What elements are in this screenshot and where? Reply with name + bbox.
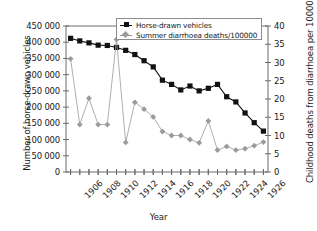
data-point-marker <box>132 99 138 105</box>
data-point-marker <box>261 129 266 134</box>
legend-item-horse-drawn-vehicles: Horse-drawn vehicles <box>120 20 258 30</box>
data-point-marker <box>242 146 248 152</box>
data-point-marker <box>178 133 184 139</box>
legend-label-summer-diarrhoea-deaths: Summer diarrhoea deaths/100000 <box>136 31 257 40</box>
series-horse-drawn-vehicles <box>68 36 266 134</box>
y-tick-label-left: 350 000 <box>8 53 60 63</box>
data-point-marker <box>197 88 202 93</box>
data-point-marker <box>141 58 146 63</box>
data-point-marker <box>215 147 221 153</box>
data-point-marker <box>132 52 137 57</box>
data-point-marker <box>96 43 101 48</box>
data-point-marker <box>77 38 82 43</box>
y-tick-label-right: 10 <box>274 131 298 141</box>
data-point-marker <box>123 140 129 146</box>
series-summer-diarrhoea-deaths <box>68 37 267 153</box>
data-point-marker <box>261 139 267 145</box>
series-line <box>71 40 264 151</box>
y-tick-label-right: 5 <box>274 149 298 159</box>
y-tick-label-right: 40 <box>274 21 298 31</box>
data-point-marker <box>86 40 91 45</box>
data-point-marker <box>233 147 239 153</box>
legend-label-horse-drawn-vehicles: Horse-drawn vehicles <box>136 21 212 30</box>
data-point-marker <box>187 83 192 88</box>
y-tick-label-left: 0 <box>8 167 60 177</box>
y-tick-label-left: 200 000 <box>8 102 60 112</box>
y-tick-label-left: 300 000 <box>8 70 60 80</box>
data-point-marker <box>233 99 238 104</box>
data-point-marker <box>206 86 211 91</box>
data-point-marker <box>68 36 73 41</box>
legend-item-summer-diarrhoea-deaths: Summer diarrhoea deaths/100000 <box>120 30 258 40</box>
y-tick-label-left: 450 000 <box>8 21 60 31</box>
data-point-marker <box>252 120 257 125</box>
data-point-marker <box>160 78 165 83</box>
data-point-marker <box>224 94 229 99</box>
legend-marker-diamond-icon <box>120 31 132 40</box>
data-point-marker <box>169 133 175 139</box>
data-point-marker <box>95 122 101 128</box>
y-tick-label-left: 250 000 <box>8 86 60 96</box>
legend-marker-square-icon <box>120 21 132 30</box>
data-point-marker <box>123 48 128 53</box>
data-point-marker <box>86 95 92 101</box>
y-tick-label-left: 100 000 <box>8 135 60 145</box>
data-point-marker <box>151 64 156 69</box>
data-point-marker <box>178 87 183 92</box>
data-point-marker <box>104 122 110 128</box>
chart-figure: Number of horse-drawn vehicles Childhood… <box>0 0 317 231</box>
data-point-marker <box>160 129 166 135</box>
y-tick-label-left: 150 000 <box>8 118 60 128</box>
data-point-marker <box>105 43 110 48</box>
data-point-marker <box>68 56 74 62</box>
y-tick-label-right: 20 <box>274 94 298 104</box>
data-point-marker <box>77 122 83 128</box>
y-tick-label-right: 25 <box>274 76 298 86</box>
y-tick-label-right: 30 <box>274 58 298 68</box>
data-point-marker <box>187 137 193 143</box>
y-tick-label-right: 35 <box>274 39 298 49</box>
y-tick-label-left: 50 000 <box>8 151 60 161</box>
y-tick-label-left: 400 000 <box>8 37 60 47</box>
y-tick-label-right: 0 <box>274 167 298 177</box>
data-point-marker <box>215 82 220 87</box>
chart-legend: Horse-drawn vehicles Summer diarrhoea de… <box>116 18 262 40</box>
data-point-marker <box>224 144 230 150</box>
data-point-marker <box>169 82 174 87</box>
data-point-marker <box>251 143 257 149</box>
series-line <box>71 38 264 131</box>
data-point-marker <box>196 140 202 146</box>
data-point-marker <box>242 110 247 115</box>
y-tick-label-right: 15 <box>274 112 298 122</box>
data-point-marker <box>205 118 211 124</box>
data-point-marker <box>114 45 119 50</box>
